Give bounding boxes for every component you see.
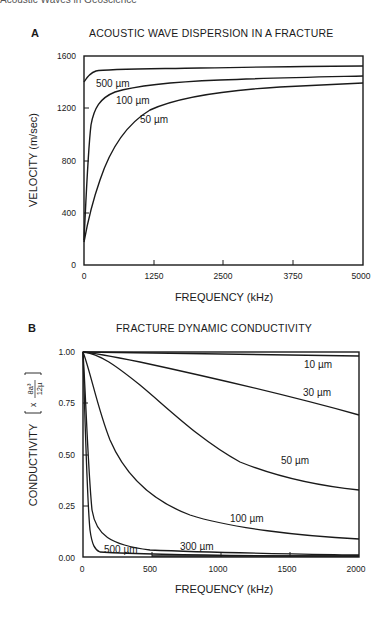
chart-a-xtick-1250: 1250 (145, 271, 164, 281)
chart-a-xlabel: FREQUENCY (kHz) (175, 291, 273, 303)
chart-b-xtick-1000: 1000 (209, 564, 228, 574)
chart-b-label-10um: 10 µm (304, 359, 332, 370)
chart-a-label-100um: 100 µm (116, 95, 150, 106)
chart-a-ylabel: VELOCITY (m/sec) (27, 113, 39, 207)
chart-b-ylabel-group: CONDUCTIVITY x 8a³ 12µ (25, 373, 44, 506)
chart-a-xtick-3750: 3750 (284, 271, 303, 281)
chart-b-label-300um: 300 µm (180, 541, 214, 552)
chart-b-ytick-0.50: 0.50 (58, 450, 75, 460)
chart-a-label-50um: 50 µm (140, 114, 168, 125)
chart-a-ytick-800: 800 (62, 156, 76, 166)
chart-b-label-50um: 50 µm (281, 455, 309, 466)
chart-a-xtick-0: 0 (82, 271, 87, 281)
chart-a-label-500um: 500 µm (96, 78, 130, 89)
chart-b-xlabel: FREQUENCY (kHz) (175, 583, 273, 595)
chart-b-label-30um: 30 µm (303, 387, 331, 398)
chart-a-ytick-400: 400 (62, 208, 76, 218)
chart-b-factor-denominator: 12µ (35, 382, 44, 395)
chart-a-x-ticks (154, 260, 293, 265)
chart-b-ytick-0.25: 0.25 (58, 501, 75, 511)
chart-b-curve-500um (83, 352, 359, 556)
chart-b-label-500um: 500 µm (104, 544, 138, 555)
chart-b-ytick-1.00: 1.00 (58, 347, 75, 357)
chart-b-factor-numerator: 8a³ (26, 383, 35, 394)
chart-b-curve-50um (83, 352, 359, 490)
chart-b-xtick-500: 500 (143, 564, 157, 574)
chart-b-xtick-1500: 1500 (278, 564, 297, 574)
chart-b-plot-frame (83, 352, 359, 557)
chart-a-xtick-2500: 2500 (214, 271, 233, 281)
chart-b-ytick-0.75: 0.75 (58, 398, 75, 408)
chart-a-ytick-0: 0 (71, 260, 76, 270)
chart-b-xtick-0: 0 (80, 564, 85, 574)
chart-b-ylabel: CONDUCTIVITY (27, 423, 39, 506)
chart-b-factor-x: x (28, 402, 38, 407)
charts-canvas: 1600 1200 800 400 0 0 1250 2500 3750 500… (0, 0, 388, 617)
chart-a: 1600 1200 800 400 0 0 1250 2500 3750 500… (27, 51, 371, 303)
chart-b-xtick-2000: 2000 (347, 564, 366, 574)
chart-b-label-100um: 100 µm (230, 513, 264, 524)
chart-b: 1.00 0.75 0.50 0.25 0.00 0 500 1000 1500… (25, 347, 366, 595)
chart-b-ytick-0.00: 0.00 (58, 553, 75, 563)
chart-b-ylabel-factor: x 8a³ 12µ (25, 373, 44, 413)
chart-b-curve-300um (83, 352, 359, 555)
chart-a-ytick-1200: 1200 (57, 103, 76, 113)
chart-a-ytick-1600: 1600 (57, 51, 76, 61)
chart-a-curve-50um (84, 83, 363, 242)
chart-a-xtick-5000: 5000 (352, 271, 371, 281)
